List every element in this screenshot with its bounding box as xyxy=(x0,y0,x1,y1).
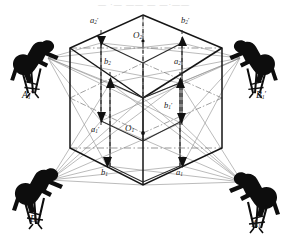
label-O1: O1 xyxy=(125,124,134,134)
label-a1-prime: a1′ xyxy=(91,125,99,134)
inner-frame xyxy=(101,43,182,182)
label-b2: b2 xyxy=(104,57,111,66)
diagram-canvas xyxy=(0,0,288,240)
dot-O1 xyxy=(141,131,145,135)
label-b1-prime: b1′ xyxy=(164,101,172,110)
label-camera-B1: B1 xyxy=(30,215,39,225)
label-a2-prime: a2′ xyxy=(90,16,98,25)
label-b2-prime: b2′ xyxy=(181,16,189,25)
camera-figure-A1-prime xyxy=(10,40,58,98)
camera-figure-B1-prime xyxy=(229,40,277,98)
figure-root: — ·— —— — —·—— xyxy=(0,0,288,240)
camera-ray-lines xyxy=(48,43,242,185)
label-camera-A1: A1 xyxy=(252,220,261,230)
mid-plane-lines xyxy=(70,63,222,133)
label-O2: O2 xyxy=(133,31,142,41)
marker-b2-prime xyxy=(178,36,187,46)
label-a1: a1 xyxy=(176,168,183,177)
label-b1: b1 xyxy=(101,168,108,177)
cube-outline xyxy=(70,15,222,185)
label-camera-A1-prime: A1′ xyxy=(22,91,32,101)
label-camera-B1-prime: B1′ xyxy=(256,91,266,101)
label-a2: a2 xyxy=(174,57,181,66)
